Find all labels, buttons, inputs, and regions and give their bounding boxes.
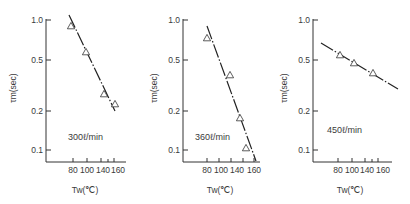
ytick-0.1: 0.1 <box>298 145 310 155</box>
ytick-1.0: 1.0 <box>168 15 180 25</box>
ytick-1.0: 1.0 <box>31 15 43 25</box>
ytick-0.5: 0.5 <box>298 55 310 65</box>
xtick-160: 160 <box>111 165 125 175</box>
x-axis <box>313 158 392 162</box>
y-axis <box>46 19 51 162</box>
xtick-140: 140 <box>360 165 374 175</box>
x-axis <box>46 158 126 162</box>
y-axis-label: τm(sec) <box>279 73 289 102</box>
xtick-160: 160 <box>247 165 261 175</box>
xtick-80: 80 <box>68 165 78 175</box>
ytick-0.1: 0.1 <box>31 145 43 155</box>
chart-panel-300: 1.0 0.5 0.2 0.1 80 100 140 160 Tw(℃) τm(… <box>8 15 126 195</box>
flow-rate-label: 450ℓ/min <box>327 125 362 135</box>
xtick-80: 80 <box>202 165 212 175</box>
ytick-0.1: 0.1 <box>168 145 180 155</box>
y-axis <box>313 19 318 162</box>
data-markers <box>336 51 376 75</box>
xtick-100: 100 <box>214 165 228 175</box>
x-axis-label: Tw(℃) <box>207 185 234 195</box>
flow-rate-label: 360ℓ/min <box>195 132 230 142</box>
ytick-0.2: 0.2 <box>168 106 180 116</box>
xtick-140: 140 <box>96 165 110 175</box>
y-axis-label: τm(sec) <box>8 73 18 102</box>
ytick-0.5: 0.5 <box>168 55 180 65</box>
xtick-100: 100 <box>80 165 94 175</box>
xtick-80: 80 <box>333 165 343 175</box>
ytick-1.0: 1.0 <box>298 15 310 25</box>
y-axis-label: τm(sec) <box>149 73 159 102</box>
chart-panel-360: 1.0 0.5 0.2 0.1 80 100 140 160 Tw(℃) τm(… <box>149 15 261 195</box>
chart-panel-450: 1.0 0.5 0.2 0.1 80 100 140 160 Tw(℃) τm(… <box>279 15 398 195</box>
xtick-100: 100 <box>345 165 359 175</box>
ytick-0.5: 0.5 <box>31 55 43 65</box>
x-axis-label: Tw(℃) <box>72 185 99 195</box>
x-axis <box>183 158 260 162</box>
flow-rate-label: 300ℓ/min <box>68 132 103 142</box>
ytick-0.2: 0.2 <box>298 106 310 116</box>
xtick-160: 160 <box>376 165 390 175</box>
figure: 1.0 0.5 0.2 0.1 80 100 140 160 Tw(℃) τm(… <box>0 0 410 204</box>
fit-line <box>321 43 398 89</box>
ytick-0.2: 0.2 <box>31 106 43 116</box>
xtick-140: 140 <box>230 165 244 175</box>
x-axis-label: Tw(℃) <box>337 185 364 195</box>
fit-line <box>69 15 115 111</box>
y-axis <box>183 19 188 162</box>
